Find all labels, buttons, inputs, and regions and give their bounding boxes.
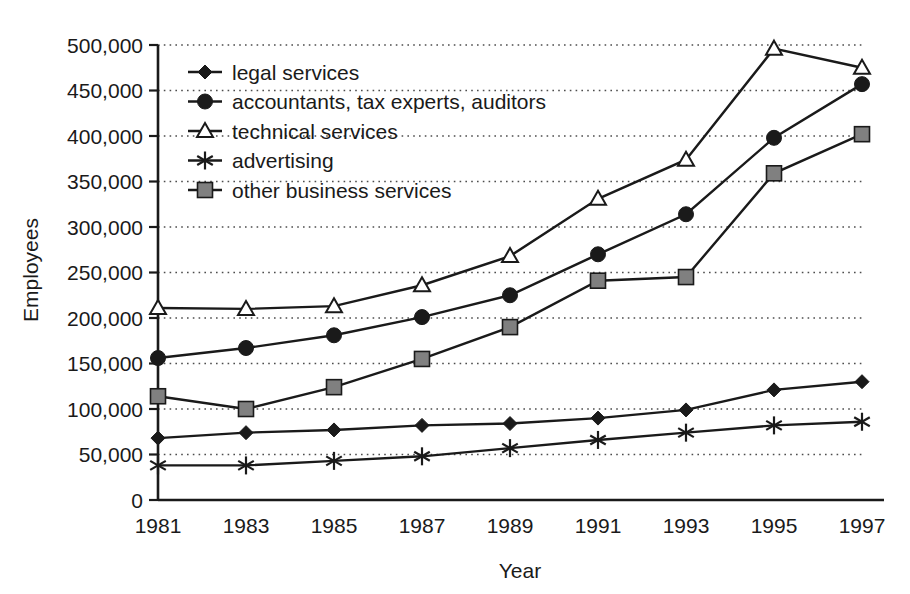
series-0 <box>151 375 869 445</box>
data-point-diamond <box>679 403 693 417</box>
data-point-diamond <box>198 65 212 79</box>
y-tick-label: 350,000 <box>67 170 143 193</box>
data-point-square-filled <box>239 402 254 417</box>
data-point-circle <box>503 288 518 303</box>
data-point-diamond <box>327 423 341 437</box>
data-point-diamond <box>239 426 253 440</box>
legend-item-advertising[interactable]: advertising <box>188 149 334 172</box>
data-point-circle <box>151 351 166 366</box>
y-tick-label: 450,000 <box>67 79 143 102</box>
y-tick-label: 500,000 <box>67 34 143 57</box>
chart-legend: legal servicesaccountants, tax experts, … <box>188 61 546 202</box>
y-axis-tick-labels: 050,000100,000150,000200,000250,000300,0… <box>67 34 143 512</box>
y-tick-label: 200,000 <box>67 307 143 330</box>
data-point-square-filled <box>591 273 606 288</box>
data-point-diamond <box>415 418 429 432</box>
data-point-square-filled <box>151 389 166 404</box>
legend-label: legal services <box>232 61 359 84</box>
x-tick-label: 1981 <box>135 514 182 537</box>
chart-container: 050,000100,000150,000200,000250,000300,0… <box>0 0 910 594</box>
data-point-square-filled <box>855 127 870 142</box>
data-point-square-filled <box>679 270 694 285</box>
line-chart: 050,000100,000150,000200,000250,000300,0… <box>0 0 910 594</box>
data-point-circle <box>198 94 213 109</box>
legend-item-accountants[interactable]: accountants, tax experts, auditors <box>188 90 546 113</box>
data-point-diamond <box>503 417 517 431</box>
data-point-triangle-open <box>590 191 606 205</box>
data-point-diamond <box>767 383 781 397</box>
x-tick-label: 1997 <box>839 514 886 537</box>
legend-label: advertising <box>232 149 334 172</box>
legend-item-other-business-services[interactable]: other business services <box>188 179 451 202</box>
y-tick-label: 400,000 <box>67 125 143 148</box>
x-tick-label: 1991 <box>575 514 622 537</box>
data-point-triangle-open <box>766 41 782 55</box>
y-tick-label: 250,000 <box>67 261 143 284</box>
data-point-circle <box>679 207 694 222</box>
y-tick-label: 100,000 <box>67 398 143 421</box>
data-point-square-filled <box>767 166 782 181</box>
data-point-circle <box>239 341 254 356</box>
data-point-diamond <box>151 431 165 445</box>
x-tick-label: 1989 <box>487 514 534 537</box>
legend-label: other business services <box>232 179 451 202</box>
x-axis-tick-labels: 198119831985198719891991199319951997 <box>135 514 886 537</box>
data-point-circle <box>415 310 430 325</box>
data-point-triangle-open <box>502 248 518 262</box>
data-point-circle <box>327 328 342 343</box>
data-point-diamond <box>591 411 605 425</box>
y-tick-label: 50,000 <box>79 443 143 466</box>
legend-label: accountants, tax experts, auditors <box>232 90 546 113</box>
x-tick-label: 1987 <box>399 514 446 537</box>
x-axis-title: Year <box>499 559 541 582</box>
x-tick-label: 1993 <box>663 514 710 537</box>
legend-item-legal-services[interactable]: legal services <box>188 61 359 84</box>
data-point-circle <box>855 77 870 92</box>
y-axis-ticks <box>149 45 158 500</box>
data-point-square-filled <box>415 351 430 366</box>
data-point-square-filled <box>327 380 342 395</box>
x-tick-label: 1985 <box>311 514 358 537</box>
series-line <box>158 134 862 409</box>
data-point-diamond <box>855 375 869 389</box>
y-tick-label: 300,000 <box>67 216 143 239</box>
x-tick-label: 1983 <box>223 514 270 537</box>
legend-label: technical services <box>232 120 398 143</box>
data-point-square-filled <box>198 183 213 198</box>
x-tick-label: 1995 <box>751 514 798 537</box>
y-axis-title: Employees <box>19 218 42 322</box>
data-point-square-filled <box>503 320 518 335</box>
y-tick-label: 0 <box>131 489 143 512</box>
data-point-circle <box>591 247 606 262</box>
y-tick-label: 150,000 <box>67 352 143 375</box>
data-point-circle <box>767 130 782 145</box>
legend-item-technical-services[interactable]: technical services <box>188 120 398 143</box>
